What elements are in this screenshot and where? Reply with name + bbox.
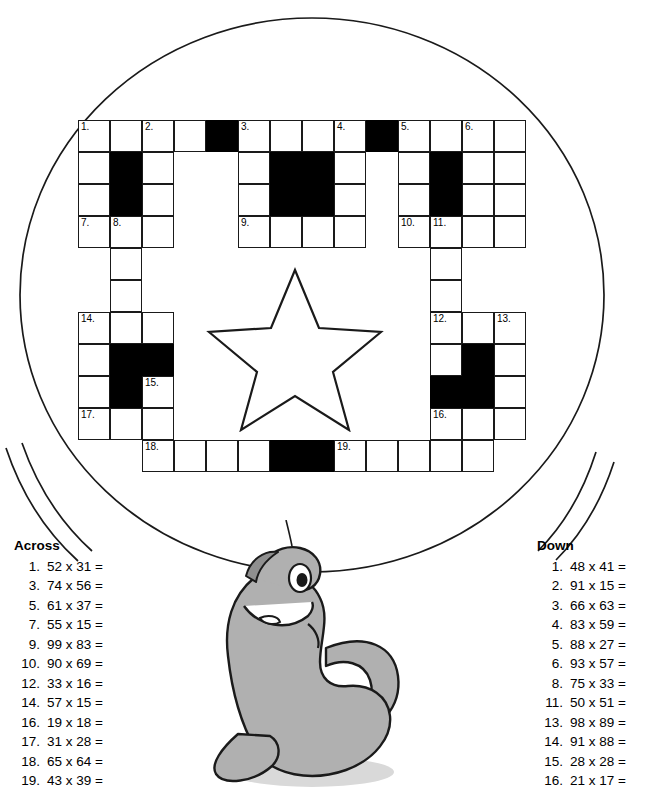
down-clues: Down 1.48 x 41 =2.91 x 15 =3.66 x 63 =4.… <box>537 536 626 791</box>
grid-cell[interactable] <box>238 440 270 472</box>
clue-text: 31 x 28 = <box>40 732 103 752</box>
grid-cell[interactable] <box>334 216 366 248</box>
grid-cell[interactable] <box>494 152 526 184</box>
grid-cell[interactable]: 15. <box>142 376 174 408</box>
grid-cell[interactable] <box>462 408 494 440</box>
grid-cell[interactable] <box>238 184 270 216</box>
grid-cell[interactable] <box>78 184 110 216</box>
clue-text: 74 x 56 = <box>40 576 103 596</box>
clue-text: 43 x 39 = <box>40 771 103 791</box>
grid-cell[interactable] <box>110 120 142 152</box>
down-heading: Down <box>537 536 626 556</box>
grid-cell[interactable] <box>110 408 142 440</box>
grid-cell[interactable] <box>494 216 526 248</box>
down-clue-list: 1.48 x 41 =2.91 x 15 =3.66 x 63 =4.83 x … <box>537 557 626 791</box>
grid-cell[interactable] <box>302 216 334 248</box>
grid-cell[interactable]: 18. <box>142 440 174 472</box>
grid-cell[interactable] <box>462 440 494 472</box>
clue-text: 88 x 27 = <box>563 635 626 655</box>
clue-number: 1. <box>537 557 563 577</box>
grid-cell[interactable] <box>238 152 270 184</box>
grid-cell-number: 9. <box>241 217 249 229</box>
grid-cell-blocked <box>110 184 142 216</box>
grid-cell[interactable]: 3. <box>238 120 270 152</box>
grid-cell-blocked <box>430 376 462 408</box>
grid-cell[interactable] <box>110 280 142 312</box>
grid-cell-number: 15. <box>145 377 159 389</box>
grid-cell[interactable] <box>430 344 462 376</box>
grid-cell[interactable]: 9. <box>238 216 270 248</box>
star-shape <box>205 262 385 432</box>
clue-text: 28 x 28 = <box>563 752 626 772</box>
grid-cell[interactable] <box>142 312 174 344</box>
grid-cell[interactable] <box>494 184 526 216</box>
grid-cell[interactable]: 5. <box>398 120 430 152</box>
clue-number: 3. <box>537 596 563 616</box>
grid-cell[interactable]: 7. <box>78 216 110 248</box>
grid-cell[interactable] <box>494 408 526 440</box>
grid-cell[interactable] <box>462 184 494 216</box>
grid-cell[interactable]: 4. <box>334 120 366 152</box>
clue-number: 13. <box>537 713 563 733</box>
grid-cell[interactable] <box>110 312 142 344</box>
grid-cell[interactable] <box>78 376 110 408</box>
grid-cell[interactable] <box>462 312 494 344</box>
grid-cell[interactable] <box>398 184 430 216</box>
clue-number: 17. <box>14 732 40 752</box>
grid-cell[interactable] <box>142 184 174 216</box>
grid-cell[interactable] <box>334 184 366 216</box>
clue-text: 48 x 41 = <box>563 557 626 577</box>
grid-cell[interactable]: 14. <box>78 312 110 344</box>
grid-cell[interactable] <box>462 216 494 248</box>
grid-cell[interactable] <box>174 120 206 152</box>
grid-cell[interactable]: 10. <box>398 216 430 248</box>
grid-cell[interactable] <box>110 248 142 280</box>
grid-cell-blocked <box>206 120 238 152</box>
grid-cell[interactable]: 19. <box>334 440 366 472</box>
grid-cell[interactable] <box>78 344 110 376</box>
grid-cell[interactable] <box>302 120 334 152</box>
grid-cell[interactable] <box>270 120 302 152</box>
clue-item: 6.93 x 57 = <box>537 654 626 674</box>
clue-number: 18. <box>14 752 40 772</box>
grid-cell[interactable] <box>430 248 462 280</box>
grid-cell[interactable] <box>398 152 430 184</box>
grid-cell[interactable]: 17. <box>78 408 110 440</box>
grid-cell[interactable] <box>430 120 462 152</box>
grid-cell[interactable]: 16. <box>430 408 462 440</box>
grid-cell[interactable]: 1. <box>78 120 110 152</box>
grid-cell[interactable] <box>366 440 398 472</box>
grid-cell[interactable]: 6. <box>462 120 494 152</box>
clue-number: 7. <box>14 615 40 635</box>
grid-cell[interactable]: 12. <box>430 312 462 344</box>
grid-cell[interactable] <box>430 440 462 472</box>
grid-cell-number: 5. <box>401 121 409 133</box>
grid-cell[interactable] <box>494 376 526 408</box>
clue-text: 93 x 57 = <box>563 654 626 674</box>
grid-cell[interactable] <box>142 152 174 184</box>
grid-cell[interactable] <box>78 152 110 184</box>
grid-cell[interactable] <box>430 280 462 312</box>
clue-number: 11. <box>537 693 563 713</box>
grid-cell[interactable] <box>270 216 302 248</box>
grid-cell[interactable]: 2. <box>142 120 174 152</box>
grid-cell[interactable] <box>494 120 526 152</box>
grid-cell[interactable]: 13. <box>494 312 526 344</box>
grid-cell[interactable] <box>174 440 206 472</box>
clue-text: 50 x 51 = <box>563 693 626 713</box>
grid-cell[interactable] <box>398 440 430 472</box>
grid-cell[interactable]: 8. <box>110 216 142 248</box>
grid-cell[interactable] <box>142 216 174 248</box>
clue-text: 55 x 15 = <box>40 615 103 635</box>
clue-number: 1. <box>14 557 40 577</box>
grid-cell[interactable] <box>142 408 174 440</box>
grid-cell[interactable] <box>462 152 494 184</box>
grid-cell[interactable]: 11. <box>430 216 462 248</box>
clue-text: 90 x 69 = <box>40 654 103 674</box>
grid-cell-blocked <box>430 184 462 216</box>
clue-number: 5. <box>537 635 563 655</box>
grid-cell[interactable] <box>494 344 526 376</box>
grid-cell[interactable] <box>334 152 366 184</box>
grid-cell-number: 12. <box>433 313 447 325</box>
grid-cell[interactable] <box>206 440 238 472</box>
